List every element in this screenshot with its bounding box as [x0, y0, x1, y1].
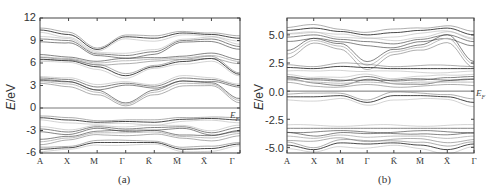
x-tick-label: M̄: [169, 156, 185, 166]
y-tick-label: 2.5: [258, 58, 284, 69]
y-tick-label: 5.0: [258, 30, 284, 41]
x-tick-label: X: [306, 156, 322, 166]
x-tick-label: X̄: [196, 156, 212, 166]
x-tick-label: M: [86, 156, 102, 166]
band-structure-panel-a: E/eV 12 9 6 3 0 -3 -6 A X M Γ K̄ M̄ X̄ Γ…: [0, 0, 248, 194]
fermi-subscript: F: [236, 116, 240, 122]
fermi-level-label-a: EF: [230, 110, 239, 122]
x-tick-label: A: [279, 156, 295, 166]
x-tick-label: K̄: [141, 156, 157, 166]
x-tick-label: Γ: [114, 156, 130, 166]
x-tick-label: Γ: [466, 156, 482, 166]
y-tick-label: 0.0: [258, 87, 284, 98]
fermi-subscript: F: [482, 94, 486, 100]
y-tick-label: 0: [10, 102, 36, 113]
y-tick-label: 6: [10, 57, 36, 68]
y-axis-label-symbol: E: [252, 102, 266, 110]
x-tick-label: X: [59, 156, 75, 166]
y-tick-label: -5.0: [258, 143, 284, 154]
x-tick-label: Γ: [224, 156, 240, 166]
panel-caption-b: (b): [378, 173, 391, 185]
x-tick-label: K̄: [386, 156, 402, 166]
y-tick-label: -3: [10, 125, 36, 136]
band-structure-panel-b: E/eV 5.0 2.5 0.0 -2.5 -5.0 A X M Γ K̄ M̄…: [248, 0, 496, 194]
x-tick-label: X̄: [439, 156, 455, 166]
x-tick-label: M̄: [412, 156, 428, 166]
y-tick-label: 12: [10, 12, 36, 23]
x-tick-label: A: [32, 156, 48, 166]
y-tick-label: 9: [10, 35, 36, 46]
y-tick-label: -2.5: [258, 115, 284, 126]
panel-caption-a: (a): [118, 173, 130, 185]
fermi-level-label-b: EF: [476, 88, 485, 100]
x-tick-label: Γ: [359, 156, 375, 166]
x-tick-label: M: [332, 156, 348, 166]
y-tick-label: 3: [10, 80, 36, 91]
